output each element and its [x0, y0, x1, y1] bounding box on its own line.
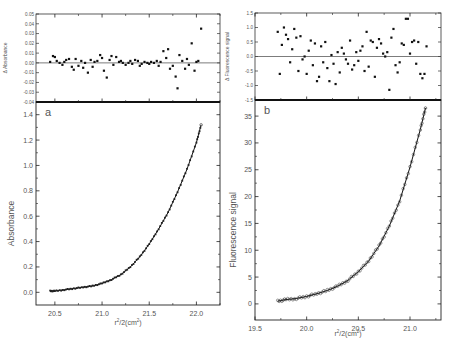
residual-point	[370, 39, 372, 41]
data-point	[65, 289, 67, 291]
residual-point	[310, 39, 312, 41]
residual-point	[316, 80, 318, 82]
data-point	[175, 194, 177, 196]
residual-point	[120, 60, 122, 62]
residual-point	[106, 76, 108, 78]
residual-point	[345, 58, 347, 60]
residual-point	[413, 39, 415, 41]
x-axis-label: r2/2(cm2)	[334, 329, 361, 338]
residual-point	[56, 60, 58, 62]
data-point	[71, 288, 73, 290]
data-point	[73, 287, 75, 289]
residual-point	[169, 68, 171, 70]
data-point	[158, 228, 160, 230]
residual-point	[301, 58, 303, 60]
data-point	[197, 136, 199, 138]
residual-point	[277, 31, 279, 33]
residual-point	[125, 64, 127, 66]
data-point	[112, 278, 114, 280]
data-point	[98, 283, 100, 285]
residual-point	[376, 47, 378, 49]
y-tick-label: 0.05	[25, 12, 34, 17]
residual-point	[299, 35, 301, 37]
residual-y-axis-label: Δ Fluorescence signal	[224, 32, 230, 81]
y-tick-label: 0.00	[25, 61, 34, 66]
residual-point	[283, 26, 285, 28]
data-point	[188, 164, 190, 166]
residual-point	[355, 51, 357, 53]
residual-point	[382, 53, 384, 55]
residual-point	[339, 71, 341, 73]
data-point	[107, 280, 109, 282]
data-point	[81, 286, 83, 288]
data-point	[172, 201, 174, 203]
x-tick-label: 22.0	[190, 310, 204, 317]
residual-point	[109, 59, 111, 61]
data-point	[161, 222, 163, 224]
residual-point	[99, 54, 101, 56]
residual-point	[63, 61, 65, 63]
residual-point	[122, 62, 124, 64]
x-tick-label: 21.0	[95, 310, 109, 317]
residual-point	[357, 60, 359, 62]
residual-point	[58, 62, 60, 64]
residual-point	[326, 67, 328, 69]
data-point	[117, 275, 119, 277]
data-point	[164, 217, 166, 219]
data-point	[155, 234, 157, 236]
residual-point	[131, 63, 133, 65]
x-tick-label: 21.0	[403, 325, 417, 332]
data-point	[189, 159, 191, 161]
y-tick-label: -1.0	[245, 83, 253, 88]
residual-point	[384, 55, 386, 57]
residual-point	[403, 44, 405, 46]
residual-point	[193, 70, 195, 72]
data-point	[90, 286, 92, 288]
residual-point	[87, 72, 89, 74]
residual-point	[101, 57, 103, 59]
data-point	[181, 180, 183, 182]
y-tick-label: 0.04	[25, 22, 34, 27]
data-point	[159, 225, 161, 227]
fit-curve	[50, 125, 201, 291]
data-point	[76, 287, 78, 289]
residual-point	[153, 62, 155, 64]
residual-point	[409, 53, 411, 55]
residual-point	[159, 61, 161, 63]
main-frame	[255, 100, 441, 320]
y-tick-label: 20	[244, 193, 252, 200]
data-point	[118, 275, 120, 277]
residual-point	[386, 51, 388, 53]
data-point	[131, 264, 133, 266]
residual-point	[359, 50, 361, 52]
data-point	[68, 288, 70, 290]
residual-point	[191, 42, 193, 44]
residual-point	[374, 76, 376, 78]
data-point	[170, 205, 172, 207]
residual-point	[295, 37, 297, 39]
residual-point	[343, 53, 345, 55]
y-tick-label: 1.2	[23, 137, 33, 144]
residual-point	[61, 64, 63, 66]
residual-point	[181, 60, 183, 62]
residual-point	[82, 67, 84, 69]
residual-point	[366, 31, 368, 33]
data-point	[128, 267, 130, 269]
residual-point	[77, 65, 79, 67]
data-point	[89, 285, 91, 287]
residual-point	[150, 61, 152, 63]
residual-point	[363, 70, 365, 72]
data-point	[151, 238, 153, 240]
panel-label: a	[45, 106, 52, 118]
data-point	[70, 288, 72, 290]
residual-point	[417, 41, 419, 43]
residual-point	[390, 37, 392, 39]
data-point	[144, 250, 146, 252]
data-point	[84, 286, 86, 288]
residual-point	[197, 60, 199, 62]
data-point	[103, 281, 105, 283]
residual-point	[134, 59, 136, 61]
data-point	[93, 285, 95, 287]
y-tick-label: 1.4	[23, 111, 33, 118]
residual-point	[200, 28, 202, 30]
